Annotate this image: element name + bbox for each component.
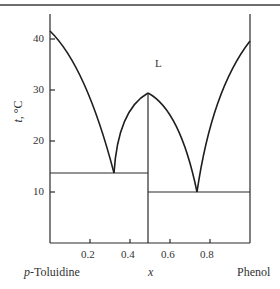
xtick-0.8: 0.8 <box>200 248 214 260</box>
ylabel-unit: , °C <box>11 100 25 119</box>
liquidus-compound-right <box>148 93 197 192</box>
x-axis-label: x <box>148 265 153 280</box>
ytick-20: 20 <box>33 134 44 146</box>
liquidus-p-toluidine <box>50 31 114 173</box>
ylabel-symbol: t <box>11 119 25 122</box>
xtick-0.4: 0.4 <box>121 248 135 260</box>
liquidus-phenol <box>197 41 250 192</box>
y-axis-label: t, °C <box>11 100 26 122</box>
left-component-name: -Toluidine <box>30 265 80 279</box>
ytick-10: 10 <box>33 185 44 197</box>
left-component-label: p-Toluidine <box>24 265 80 280</box>
xtick-0.2: 0.2 <box>81 248 95 260</box>
liquidus-compound-left <box>114 93 148 173</box>
xtick-0.6: 0.6 <box>161 248 175 260</box>
region-label-liquid: L <box>155 57 162 69</box>
ytick-40: 40 <box>33 32 44 44</box>
ytick-30: 30 <box>33 83 44 95</box>
right-component-label: Phenol <box>237 265 270 280</box>
